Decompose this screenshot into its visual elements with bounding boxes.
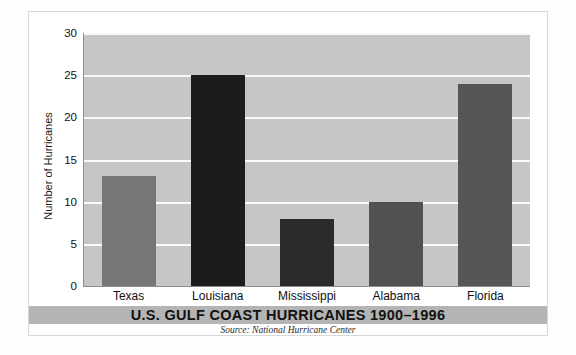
y-axis-title: Number of Hurricanes xyxy=(42,66,54,266)
plot-container: 051015202530 TexasLouisianaMississippiAl… xyxy=(0,0,576,355)
chart-title: U.S. GULF COAST HURRICANES 1900–1996 xyxy=(29,306,547,324)
chart-figure: 051015202530 TexasLouisianaMississippiAl… xyxy=(0,0,576,355)
chart-source-note: Source: National Hurricane Center xyxy=(29,325,547,335)
x-tick-label-florida: Florida xyxy=(425,289,545,303)
y-tick-label-30: 30 xyxy=(36,27,77,39)
